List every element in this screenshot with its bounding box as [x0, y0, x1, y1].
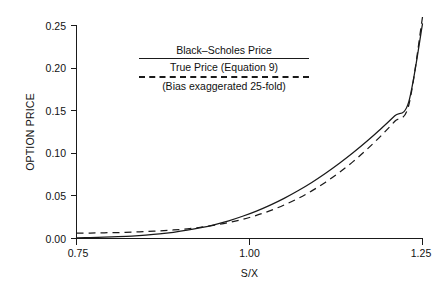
legend-rule-dashed — [139, 76, 309, 78]
x-axis-title: S/X — [241, 267, 259, 279]
legend-label-black-scholes: Black–Scholes Price — [139, 44, 309, 57]
x-tick-label-2: 1.25 — [411, 247, 432, 259]
x-tick-label-1: 1.00 — [239, 247, 260, 259]
y-tick-label-2: 0.10 — [46, 147, 67, 159]
y-tick-label-4: 0.20 — [46, 62, 67, 74]
y-tick-label-5: 0.25 — [46, 20, 67, 32]
legend-rule-solid — [139, 58, 309, 59]
chart-legend: Black–Scholes Price True Price (Equation… — [139, 44, 309, 93]
x-axis-ticks — [77, 239, 423, 246]
x-tick-label-0: 0.75 — [68, 247, 89, 259]
legend-label-true-price: True Price (Equation 9) — [139, 61, 309, 74]
y-tick-label-3: 0.15 — [46, 105, 67, 117]
legend-note-bias: (Bias exaggerated 25-fold) — [139, 80, 309, 93]
y-tick-label-1: 0.05 — [46, 190, 67, 202]
y-tick-label-0: 0.00 — [46, 233, 67, 245]
y-axis-ticks — [71, 26, 77, 239]
y-axis-title: OPTION PRICE — [24, 93, 36, 171]
option-price-chart: 0.25 0.20 0.15 0.10 0.05 0.00 0.75 1.00 … — [0, 0, 448, 291]
